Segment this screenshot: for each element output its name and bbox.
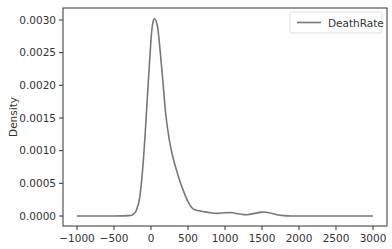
- y-tick-label: 0.0030: [19, 14, 56, 26]
- x-tick-label: 3000: [360, 232, 387, 244]
- x-tick-label: 1500: [249, 232, 276, 244]
- density-chart: 0.00000.00050.00100.00150.00200.00250.00…: [0, 0, 392, 249]
- y-tick-label: 0.0015: [19, 112, 56, 124]
- y-axis: 0.00000.00050.00100.00150.00200.00250.00…: [19, 14, 63, 222]
- y-axis-label: Density: [7, 97, 19, 137]
- x-tick-label: 500: [178, 232, 198, 244]
- y-tick-label: 0.0010: [19, 144, 56, 156]
- x-tick-label: 2500: [323, 232, 350, 244]
- x-axis: −1000−500050010001500200025003000: [59, 226, 386, 244]
- y-tick-label: 0.0025: [19, 46, 56, 58]
- y-tick-label: 0.0020: [19, 79, 56, 91]
- y-tick-label: 0.0005: [19, 177, 56, 189]
- x-tick-label: −1000: [59, 232, 95, 244]
- x-tick-label: 2000: [286, 232, 313, 244]
- x-tick-label: −500: [100, 232, 129, 244]
- x-tick-label: 0: [148, 232, 155, 244]
- legend-label: DeathRate: [328, 17, 384, 29]
- plot-area: [63, 8, 387, 226]
- legend: DeathRate: [290, 12, 384, 33]
- y-tick-label: 0.0000: [19, 210, 56, 222]
- x-tick-label: 1000: [212, 232, 239, 244]
